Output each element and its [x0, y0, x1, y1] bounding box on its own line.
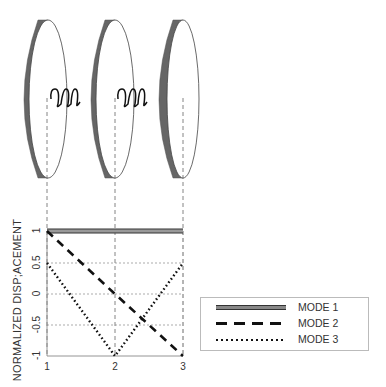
legend-item-mode-3: MODE 3 — [201, 332, 368, 348]
legend-swatch-mode-2 — [216, 322, 286, 325]
x-tick-1: 1 — [41, 361, 53, 372]
legend-swatch-mode-3 — [216, 339, 286, 341]
legend-label: MODE 2 — [298, 317, 338, 329]
legend-item-mode-1: MODE 1 — [201, 300, 368, 316]
y-tick-1: 1 — [31, 216, 42, 246]
y-tick-0: 0 — [31, 279, 42, 309]
y-tick-0-5: 0.5 — [31, 248, 42, 278]
legend: MODE 1 MODE 2 MODE 3 — [200, 297, 369, 351]
disc-2 — [91, 20, 134, 178]
legend-swatch-mode-1 — [216, 305, 286, 310]
legend-label: MODE 3 — [298, 333, 338, 345]
legend-item-mode-2: MODE 2 — [201, 316, 368, 332]
disc-1 — [24, 20, 67, 178]
legend-label: MODE 1 — [298, 301, 338, 313]
series-mode-1 — [47, 229, 183, 233]
disc-3 — [159, 20, 199, 178]
y-axis-label: NORMALIZED DISP;ACEMENT — [11, 215, 23, 385]
x-tick-2: 2 — [109, 361, 121, 372]
x-tick-3: 3 — [177, 361, 189, 372]
y-tick-neg-0-5: -0.5 — [31, 310, 42, 340]
y-tick-neg-1: -1 — [31, 341, 42, 371]
